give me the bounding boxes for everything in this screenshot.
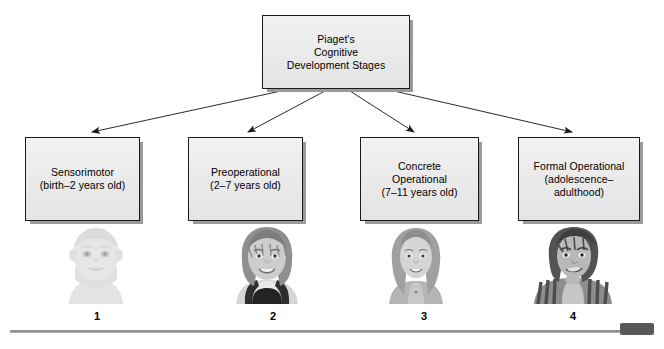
stage-node-label: Preoperational (2–7 years old) [189, 166, 302, 192]
stage-node-label: Sensorimotor (birth–2 years old) [26, 166, 139, 192]
root-node-label: Piaget's Cognitive Development Stages [263, 33, 409, 72]
baseline-rule [10, 330, 654, 333]
stage-number: 1 [77, 310, 117, 322]
stage-node-label: Formal Operational (adolescence– adultho… [519, 160, 639, 199]
young-child-portrait [232, 224, 302, 304]
stage-number: 3 [404, 310, 444, 322]
stage-node-formal-operational: Formal Operational (adolescence– adultho… [518, 137, 640, 221]
root-node: Piaget's Cognitive Development Stages [262, 15, 410, 89]
baseline-endcap [620, 323, 654, 335]
connector-arrow-2 [248, 91, 325, 132]
connector-arrow-3 [350, 91, 414, 132]
stage-node-preoperational: Preoperational (2–7 years old) [188, 137, 303, 221]
connector-arrow-1 [92, 91, 281, 132]
stage-number: 4 [553, 310, 593, 322]
stage-number: 2 [253, 310, 293, 322]
adolescent-portrait [532, 224, 614, 304]
older-child-portrait [383, 224, 449, 304]
piaget-stages-diagram: Piaget's Cognitive Development Stages Se… [0, 0, 664, 349]
connector-arrow-4 [394, 91, 572, 132]
stage-node-label: Concrete Operational (7–11 years old) [361, 160, 478, 199]
stage-node-sensorimotor: Sensorimotor (birth–2 years old) [25, 137, 140, 221]
stage-node-concrete-operational: Concrete Operational (7–11 years old) [360, 137, 479, 221]
infant-portrait [63, 224, 129, 304]
